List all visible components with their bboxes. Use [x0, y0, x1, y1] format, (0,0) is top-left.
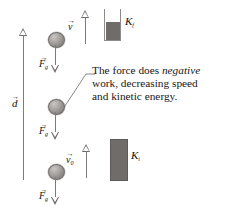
- displacement-arrow-d: [18, 28, 29, 180]
- physics-diagram-figure: →d →Fg →v Kf The force does negative wor…: [0, 0, 226, 211]
- velocity-arrow-top: [80, 10, 91, 44]
- caption-line-2: work, decreasing speed: [92, 77, 224, 90]
- energy-bar-final: [104, 9, 121, 41]
- velocity-label-bottom: →v0: [66, 152, 73, 166]
- energy-bar-initial-label: Ki: [131, 150, 140, 162]
- energy-bar-initial: [110, 139, 128, 181]
- energy-bar-final-label: Kf: [125, 16, 134, 28]
- force-arrow-bottom: [50, 177, 61, 205]
- velocity-arrow-bottom: [81, 144, 92, 178]
- force-arrow-middle: [50, 112, 61, 140]
- displacement-label: →d: [12, 95, 18, 109]
- caption-emphasis: negative: [162, 64, 200, 76]
- velocity-label-top: →v: [68, 19, 74, 32]
- force-label-top: →Fg: [39, 56, 48, 70]
- caption-line-3: and kinetic energy.: [92, 90, 224, 103]
- force-label-bottom: →Fg: [39, 188, 48, 202]
- force-arrow-top: [50, 45, 61, 73]
- caption-line-1: The force does negative: [92, 64, 224, 77]
- caption-text: The force does negative work, decreasing…: [92, 64, 224, 104]
- force-label-middle: →Fg: [39, 123, 48, 137]
